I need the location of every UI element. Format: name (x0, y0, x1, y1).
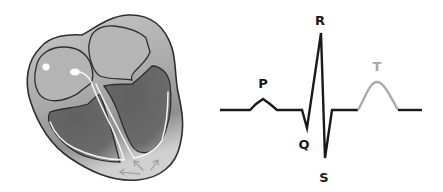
heart-illustration (27, 15, 182, 180)
label-r: R (315, 13, 325, 28)
ecg-waveform: P R Q S T (220, 13, 422, 185)
sa-node (42, 64, 49, 71)
av-node (70, 69, 80, 76)
label-s: S (319, 170, 328, 185)
label-t: T (373, 59, 382, 74)
label-p: P (258, 76, 268, 91)
label-q: Q (298, 137, 309, 152)
ecg-trace-pqrs (220, 33, 358, 158)
heart-ecg-diagram: P R Q S T (0, 0, 443, 192)
ecg-t-wave (358, 82, 398, 110)
